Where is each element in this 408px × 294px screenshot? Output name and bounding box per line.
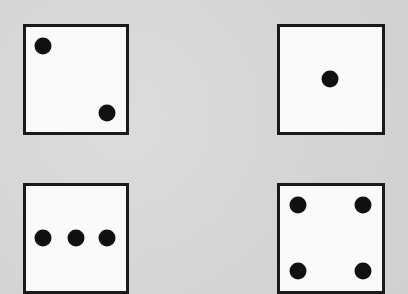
pip-dot-icon bbox=[290, 197, 307, 214]
pip-dot-icon bbox=[99, 105, 116, 122]
pip-dot-icon bbox=[290, 263, 307, 280]
pip-dot-icon bbox=[68, 230, 85, 247]
pip-dot-icon bbox=[322, 71, 339, 88]
pip-dot-icon bbox=[99, 230, 116, 247]
pip-dot-icon bbox=[35, 38, 52, 55]
pip-dot-icon bbox=[35, 230, 52, 247]
pip-dot-icon bbox=[355, 263, 372, 280]
pip-dot-icon bbox=[355, 197, 372, 214]
